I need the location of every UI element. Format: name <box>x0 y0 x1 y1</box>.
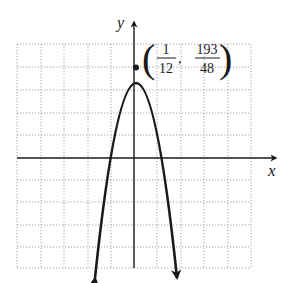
svg-text:): ) <box>219 36 232 81</box>
x-axis-label: x <box>267 161 276 180</box>
svg-text:,: , <box>178 51 182 66</box>
vertex-point <box>133 65 139 71</box>
y-axis-label: y <box>115 14 125 32</box>
vertex-y-numerator: 193 <box>197 42 218 57</box>
parabola-curve <box>95 83 177 278</box>
vertex-x-denominator: 12 <box>159 61 173 76</box>
svg-text:(: ( <box>142 36 155 81</box>
vertex-label: ( 1 12 , 193 48 ) <box>142 36 232 81</box>
vertex-x-numerator: 1 <box>163 42 170 57</box>
vertex-y-denominator: 48 <box>200 61 214 76</box>
parabola-chart: y x ( 1 12 , 193 48 ) <box>0 0 293 283</box>
